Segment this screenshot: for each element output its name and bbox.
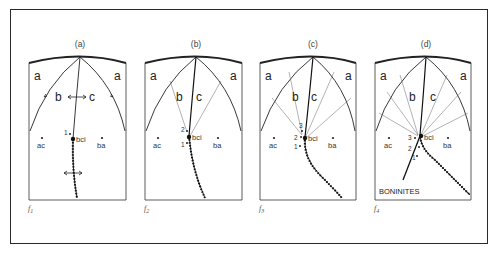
label-ba: ba bbox=[328, 141, 337, 150]
label-1: 1 bbox=[412, 154, 416, 161]
point-2-marker bbox=[300, 136, 302, 138]
point-bci-marker bbox=[303, 136, 307, 140]
panel-d: (d) a a b c bci 3 2 1 ac ba BONINITES f4 bbox=[374, 39, 471, 214]
tie-line bbox=[400, 75, 418, 135]
tie-line bbox=[306, 98, 351, 138]
label-ac: ac bbox=[269, 141, 277, 150]
point-ba-marker bbox=[217, 137, 219, 139]
trench-line bbox=[189, 136, 205, 198]
label-bci: bci bbox=[308, 134, 318, 143]
label-1: 1 bbox=[64, 129, 68, 136]
panel-caption: (b) bbox=[191, 39, 202, 49]
point-1-marker bbox=[69, 133, 71, 135]
label-2: 2 bbox=[408, 145, 412, 152]
label-ac: ac bbox=[37, 141, 45, 150]
liquidus-top-arc bbox=[260, 57, 356, 64]
label-ba: ba bbox=[213, 141, 222, 150]
tie-line bbox=[421, 92, 461, 136]
region-a-left: a bbox=[265, 69, 272, 83]
label-bci: bci bbox=[424, 133, 434, 142]
region-c: c bbox=[196, 90, 202, 104]
point-bci-marker bbox=[187, 135, 191, 139]
region-b: b bbox=[409, 90, 416, 104]
tie-line bbox=[170, 81, 187, 132]
boundary-b-c bbox=[420, 57, 426, 135]
point-ac-marker bbox=[41, 137, 43, 139]
point-bci-marker bbox=[419, 134, 423, 138]
liquidus-top-arc bbox=[29, 57, 126, 64]
field-label-f1: f1 bbox=[28, 204, 33, 214]
trench-line bbox=[305, 137, 342, 198]
panel-caption: (a) bbox=[75, 39, 86, 49]
panel-caption: (c) bbox=[308, 39, 318, 49]
panel-a: (a) a a b c bci 1 ac ba f1 bbox=[28, 39, 126, 214]
point-2-marker bbox=[186, 130, 188, 132]
boundary-b-c bbox=[73, 57, 80, 139]
point-2-marker bbox=[418, 146, 420, 148]
region-a-right: a bbox=[230, 69, 237, 83]
panel-c: (c) a a b c bci 3 2 1 ac ba f3 bbox=[259, 39, 356, 214]
region-a-right: a bbox=[114, 69, 121, 83]
region-c: c bbox=[430, 90, 436, 104]
point-ba-marker bbox=[447, 137, 449, 139]
point-ba-marker bbox=[101, 137, 103, 139]
label-1: 1 bbox=[294, 143, 298, 150]
region-c: c bbox=[311, 90, 317, 104]
field-label-f4: f4 bbox=[374, 204, 379, 214]
point-ac-marker bbox=[273, 137, 275, 139]
liquidus-top-arc bbox=[145, 57, 242, 64]
point-ac-marker bbox=[388, 137, 390, 139]
point-1-marker bbox=[186, 142, 188, 144]
panel-border bbox=[375, 63, 471, 200]
region-a-left: a bbox=[34, 69, 41, 83]
field-label-f3: f3 bbox=[259, 204, 264, 214]
region-b: b bbox=[55, 90, 62, 104]
point-bci-marker bbox=[71, 137, 75, 141]
double-arrow-icon bbox=[64, 171, 82, 175]
point-ba-marker bbox=[332, 137, 334, 139]
label-1: 1 bbox=[181, 141, 185, 148]
trench-line-core bbox=[73, 139, 77, 198]
point-1-marker bbox=[299, 145, 301, 147]
label-bci: bci bbox=[76, 135, 86, 144]
boundary-b-c bbox=[189, 57, 196, 136]
label-ac: ac bbox=[153, 141, 161, 150]
point-1-marker bbox=[416, 155, 418, 157]
label-2: 2 bbox=[294, 134, 298, 141]
label-3: 3 bbox=[408, 134, 412, 141]
label-ba: ba bbox=[97, 141, 106, 150]
region-c: c bbox=[89, 90, 95, 104]
label-2: 2 bbox=[181, 126, 185, 133]
point-3-marker bbox=[414, 137, 416, 139]
region-b: b bbox=[292, 90, 299, 104]
region-b: b bbox=[176, 90, 183, 104]
panel-b: (b) a a b c bci 2 1 ac ba f2 bbox=[144, 39, 242, 214]
trench-line-core bbox=[305, 137, 342, 198]
region-a-left: a bbox=[150, 69, 157, 83]
region-a-right: a bbox=[345, 69, 352, 83]
boninites-label: BONINITES bbox=[379, 187, 419, 196]
tie-line bbox=[190, 81, 221, 136]
trench-line-core bbox=[189, 136, 205, 198]
label-bci: bci bbox=[192, 133, 202, 142]
point-ac-marker bbox=[157, 137, 159, 139]
region-a-left: a bbox=[380, 69, 387, 83]
region-a-right: a bbox=[460, 69, 467, 83]
tie-line bbox=[421, 75, 447, 135]
field-label-f2: f2 bbox=[144, 204, 149, 214]
label-ba: ba bbox=[443, 141, 452, 150]
phase-diagram-figure: (a) a a b c bci 1 ac ba f1 (b) bbox=[0, 0, 497, 256]
tie-line bbox=[379, 113, 418, 136]
panel-caption: (d) bbox=[421, 39, 432, 49]
point-3-marker bbox=[301, 130, 303, 132]
label-3: 3 bbox=[299, 122, 303, 129]
label-ac: ac bbox=[384, 141, 392, 150]
double-arrow-icon bbox=[68, 95, 86, 99]
